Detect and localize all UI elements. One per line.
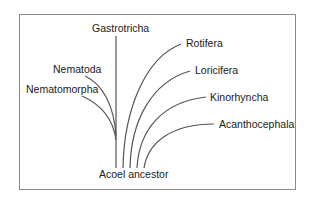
taxon-label-acanthocephala: Acanthocephala — [219, 119, 294, 130]
root-label-acoel-ancestor: Acoel ancestor — [99, 169, 168, 180]
taxon-label-gastrotricha: Gastrotricha — [92, 23, 149, 34]
taxon-label-nematoda: Nematoda — [53, 64, 101, 75]
taxon-label-nematomorpha: Nematomorpha — [26, 84, 98, 95]
taxon-label-rotifera: Rotifera — [186, 38, 223, 49]
taxon-label-loricifera: Loricifera — [195, 65, 238, 76]
branch-nematomorpha — [82, 96, 116, 140]
branch-acanthocephala — [144, 124, 214, 168]
taxon-label-kinorhyncha: Kinorhyncha — [210, 92, 268, 103]
